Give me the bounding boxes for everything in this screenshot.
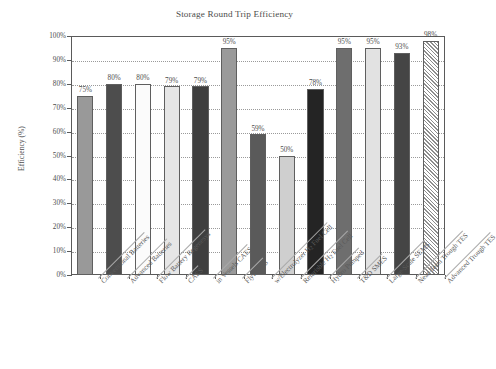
bar-slot: 95% [365,36,381,275]
y-tick-label: 40% [26,175,66,183]
bar-slot: 75% [77,36,93,275]
bar[interactable] [77,96,93,275]
y-tick-label: 50% [26,152,66,160]
bar-value-label: 95% [338,38,351,46]
y-axis-title: Efficiency (%) [17,104,26,194]
bar[interactable] [250,134,266,275]
bar-slot: 50% [279,36,295,275]
bar-value-label: 95% [223,38,236,46]
bar[interactable] [221,48,237,275]
y-tick-label: 100% [26,32,66,40]
y-tick-label: 20% [26,223,66,231]
bar-value-label: 50% [280,146,293,154]
y-tick-label: 70% [26,104,66,112]
bar-slot: 59% [250,36,266,275]
chart-title: Storage Round Trip Efficiency [0,9,469,19]
y-tick-label: 80% [26,80,66,88]
bar-value-label: 75% [79,86,92,94]
y-tick-mark [67,275,72,276]
bar-value-label: 98% [424,31,437,39]
bar-value-label: 80% [108,74,121,82]
y-tick-label: 90% [26,56,66,64]
bar-slot: 95% [221,36,237,275]
bar-slot: 80% [106,36,122,275]
bar-value-label: 78% [309,79,322,87]
bar-value-label: 59% [251,125,264,133]
bars-group: 75%80%80%79%79%95%59%50%78%95%95%93%98% [71,36,445,275]
bar-value-label: 80% [136,74,149,82]
y-tick-label: 0% [26,271,66,279]
y-tick-label: 60% [26,128,66,136]
bar-value-label: 93% [395,43,408,51]
bar-slot: 93% [394,36,410,275]
bar[interactable] [365,48,381,275]
bar-value-label: 79% [165,77,178,85]
bar-value-label: 95% [366,38,379,46]
bar[interactable] [394,53,410,275]
bar-value-label: 79% [194,77,207,85]
y-tick-label: 30% [26,199,66,207]
y-tick-label: 10% [26,247,66,255]
bar[interactable] [106,84,122,275]
